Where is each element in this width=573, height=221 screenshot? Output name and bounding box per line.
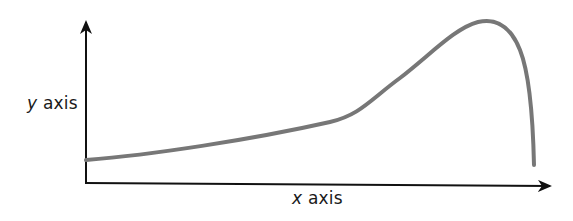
x-axis-variable: x [292, 188, 302, 208]
y-axis-label: y axis [27, 95, 78, 112]
y-axis-word: axis [43, 93, 78, 113]
x-axis [85, 183, 550, 186]
y-axis-variable: y [27, 93, 37, 113]
diagram-canvas [0, 0, 573, 221]
data-curve [86, 21, 534, 165]
x-axis-label: x axis [292, 190, 343, 207]
x-axis-word: axis [308, 188, 343, 208]
